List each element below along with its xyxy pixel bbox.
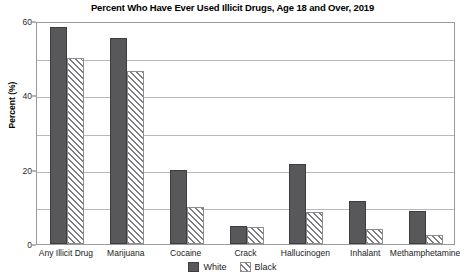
gridline [37, 60, 454, 61]
bar-white [349, 201, 366, 244]
x-tick-label: Marijuana [107, 248, 144, 258]
bar-black [187, 207, 204, 244]
bar-chart: Percent Who Have Ever Used Illicit Drugs… [0, 0, 465, 278]
bar-black [426, 235, 443, 244]
bar-white [409, 211, 426, 244]
bar-white [170, 170, 187, 244]
legend-swatch-icon [188, 262, 199, 272]
gridline [37, 209, 454, 210]
x-tick-label: Methamphetamine [390, 248, 460, 258]
legend-label: White [203, 262, 226, 272]
bar-black [366, 229, 383, 244]
y-tick-label: 20 [0, 166, 32, 176]
bar-white [110, 38, 127, 244]
legend-item-white[interactable]: White [188, 262, 226, 272]
x-tick-label: Hallucinogen [281, 248, 330, 258]
legend-label: Black [255, 262, 277, 272]
x-tick-label: Cocaine [170, 248, 201, 258]
bar-white [230, 226, 247, 244]
gridline [37, 172, 454, 173]
x-tick-label: Inhalant [350, 248, 380, 258]
bar-black [67, 58, 84, 244]
gridline [37, 135, 454, 136]
bar-white [50, 27, 67, 244]
chart-title: Percent Who Have Ever Used Illicit Drugs… [0, 2, 465, 13]
gridline [37, 97, 454, 98]
bar-black [306, 212, 323, 244]
bar-black [127, 71, 144, 244]
bar-black [247, 227, 264, 244]
plot-area [36, 22, 455, 245]
bar-white [289, 164, 306, 244]
x-tick-label: Any Illicit Drug [39, 248, 93, 258]
x-tick-label: Crack [234, 248, 256, 258]
y-tick-label: 0 [0, 240, 32, 250]
chart-legend: WhiteBlack [0, 262, 465, 272]
y-tick-label: 60 [0, 17, 32, 27]
y-axis-title: Percent (%) [7, 65, 17, 145]
legend-item-black[interactable]: Black [240, 262, 277, 272]
legend-swatch-icon [240, 262, 251, 272]
